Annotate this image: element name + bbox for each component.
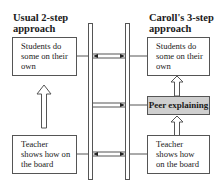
peer-explaining-box: Peer explaining: [147, 96, 210, 115]
ladder-right-rail: [126, 24, 130, 180]
right-teacher-box: Teacher shows how on the board: [147, 135, 210, 174]
right-title-line1: Caroll's 3-step: [149, 12, 214, 23]
right-title: Caroll's 3-step approach: [149, 12, 214, 34]
right-title-line2: approach: [149, 23, 214, 34]
left-teacher-box: Teacher shows how on the board: [12, 135, 77, 174]
right-students-box: Students do some on their own: [147, 37, 210, 76]
left-students-box: Students do some on their own: [12, 37, 77, 76]
hollow-up-arrow-icon: [171, 116, 183, 136]
hollow-up-arrow-icon: [171, 76, 183, 96]
ladder: [89, 24, 130, 180]
hollow-up-arrow-icon: [37, 85, 51, 128]
left-title-line1: Usual 2-step: [13, 12, 68, 23]
left-title: Usual 2-step approach: [13, 12, 68, 34]
ladder-left-rail: [89, 24, 93, 180]
left-title-line2: approach: [13, 23, 68, 34]
